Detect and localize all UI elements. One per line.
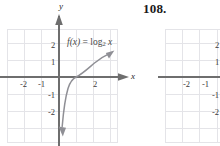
y-tick-label--2: -2 xyxy=(48,108,55,117)
x-tick-label--1: -1 xyxy=(38,80,45,89)
y-axis-arrowhead xyxy=(55,14,63,25)
x-tick-label-2: 2 xyxy=(93,80,97,89)
graph-canvas xyxy=(0,0,145,146)
curve-arrowhead-lower xyxy=(59,127,66,137)
function-annotation: f(x) = log2 x xyxy=(67,38,112,48)
graph-canvas-2 xyxy=(158,0,220,146)
y-tick-label-2--2: -2 xyxy=(212,108,219,117)
y-tick-label-2-1: 1 xyxy=(215,58,219,67)
y-tick-label-1: 1 xyxy=(51,58,55,67)
log-curve xyxy=(62,53,111,127)
x-axis-arrowhead xyxy=(118,73,129,81)
function-annotation-arg: x xyxy=(108,37,112,47)
y-tick-label--1: -1 xyxy=(48,91,55,100)
figure-panel: 108. xyxy=(0,0,220,146)
function-annotation-fx: f(x) xyxy=(67,37,80,47)
y-axis-label: y xyxy=(59,2,63,11)
x-tick-label-2--1: -1 xyxy=(202,80,209,89)
grid-lines-2 xyxy=(165,29,220,143)
y-tick-label-2-2: 2 xyxy=(215,41,219,50)
y-tick-label-2: 2 xyxy=(51,41,55,50)
y-tick-label-2--1: -1 xyxy=(212,91,219,100)
x-tick-label--2: -2 xyxy=(20,80,27,89)
function-annotation-log: log xyxy=(90,37,102,47)
figure-blank-grid: -2 -1 2 1 -1 -2 xyxy=(158,0,220,146)
figure-log-graph: y x -2 -1 2 2 1 -1 -2 f(x) = log2 x xyxy=(0,0,145,146)
x-axis-label: x xyxy=(131,72,135,81)
x-tick-label-2--2: -2 xyxy=(183,80,190,89)
